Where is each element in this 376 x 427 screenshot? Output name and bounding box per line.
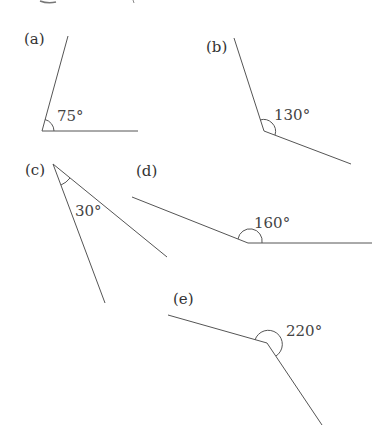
angle-b-value: 130° [274, 106, 310, 124]
angle-e: (e) 220° [168, 290, 322, 425]
angle-d-value: 160° [254, 214, 290, 232]
angle-d-ray-1 [132, 197, 248, 243]
angle-e-value: 220° [286, 322, 322, 340]
angle-e-label: (e) [173, 290, 194, 308]
angle-b: (b) 130° [206, 38, 351, 164]
cropped-header-fragment [40, 0, 134, 3]
angle-d-label: (d) [136, 162, 157, 180]
angle-c: (c) 30° [25, 161, 167, 303]
angle-c-value: 30° [75, 202, 102, 220]
angle-c-arc [61, 178, 70, 185]
angle-c-label: (c) [25, 161, 45, 179]
angle-a-label: (a) [24, 30, 45, 48]
angle-b-label: (b) [206, 38, 227, 56]
angle-e-arc [255, 330, 282, 356]
angle-b-ray-2 [264, 131, 351, 164]
angle-a-value: 75° [57, 107, 84, 125]
angle-d: (d) 160° [132, 162, 372, 243]
angle-b-ray-1 [234, 38, 264, 131]
angle-a-arc [45, 120, 54, 132]
angle-e-ray-2 [267, 343, 322, 425]
angles-diagram: (a) 75° (b) 130° (c) 30° (d) 160° (e) 22… [0, 0, 376, 427]
angle-a: (a) 75° [24, 30, 138, 131]
angle-e-ray-1 [168, 315, 267, 343]
